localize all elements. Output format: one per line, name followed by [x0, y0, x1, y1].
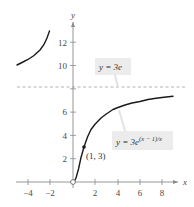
x-tick-label: −4 — [23, 188, 33, 198]
curve-label: y = 3e(x − 1)/x — [112, 131, 173, 150]
y-tick-label: 10 — [58, 61, 68, 71]
curve-label-connector — [119, 110, 125, 131]
point-1-3 — [82, 145, 86, 149]
y-tick-label: 4 — [63, 131, 68, 141]
svg-text:y = 3e: y = 3e — [98, 62, 122, 72]
y-tick-label: 12 — [58, 38, 67, 48]
curve-eq-prefix: y = 3 — [115, 137, 136, 147]
y-axis: y 2 4 6 10 12 — [58, 10, 76, 188]
open-point-origin — [71, 180, 76, 185]
asymptote-eq-prefix: y = 3 — [98, 62, 119, 72]
asymptote-label-connector — [115, 75, 118, 87]
curve-left-branch — [17, 31, 50, 65]
function-graph: x −4 −2 2 4 6 8 y 2 4 6 10 12 — [0, 0, 194, 207]
x-tick-label: −2 — [45, 188, 55, 198]
y-tick-label: 2 — [63, 154, 68, 164]
x-tick-label: 4 — [116, 188, 121, 198]
y-axis-label: y — [70, 10, 75, 20]
point-label: (1, 3) — [86, 151, 106, 161]
x-axis-arrow-icon — [173, 180, 178, 184]
x-tick-label: 2 — [93, 188, 98, 198]
asymptote-eq-e: e — [118, 62, 122, 72]
y-tick-label: 6 — [63, 107, 68, 117]
x-tick-label: 6 — [138, 188, 143, 198]
x-axis: x −4 −2 2 4 6 8 — [16, 177, 187, 198]
x-axis-label: x — [182, 177, 187, 187]
x-tick-label: 8 — [160, 188, 165, 198]
asymptote-label: y = 3e — [95, 58, 131, 75]
y-axis-arrow-icon — [71, 22, 75, 27]
curve-eq-exponent: (x − 1)/x — [139, 135, 162, 143]
